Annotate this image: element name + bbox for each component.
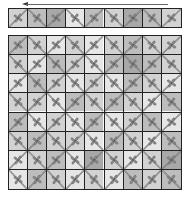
board-tile[interactable] (66, 74, 85, 93)
board-tile[interactable] (9, 151, 28, 170)
board-tile[interactable] (162, 55, 181, 74)
strip-tile[interactable] (143, 9, 162, 27)
board-tile[interactable] (28, 36, 47, 55)
strip-tile[interactable] (162, 9, 181, 27)
path-flower-icon (143, 151, 161, 169)
path-flower-icon (162, 74, 181, 92)
board-tile[interactable] (66, 93, 85, 112)
board-tile[interactable] (143, 36, 162, 55)
board-tile[interactable] (162, 151, 181, 170)
board-tile[interactable] (9, 170, 28, 189)
board-tile[interactable] (85, 74, 104, 93)
strip-tile[interactable] (28, 9, 47, 27)
path-flower-icon (85, 36, 103, 54)
path-flower-icon (28, 170, 46, 189)
strip-tile[interactable] (85, 9, 104, 27)
board-tile[interactable] (47, 74, 66, 93)
board-tile[interactable] (66, 113, 85, 132)
board-tile[interactable] (143, 74, 162, 93)
board-tile[interactable] (162, 170, 181, 189)
path-flower-icon (124, 9, 142, 27)
path-flower-icon (9, 36, 27, 54)
board-tile[interactable] (47, 36, 66, 55)
board-tile[interactable] (9, 113, 28, 132)
board-tile[interactable] (124, 93, 143, 112)
path-flower-icon (9, 113, 27, 131)
board-tile[interactable] (47, 170, 66, 189)
board-tile[interactable] (47, 113, 66, 132)
board-tile[interactable] (9, 55, 28, 74)
board-tile[interactable] (47, 93, 66, 112)
board-tile[interactable] (28, 132, 47, 151)
board-tile[interactable] (66, 170, 85, 189)
board-tile[interactable] (105, 93, 124, 112)
board-tile[interactable] (47, 151, 66, 170)
board-tile[interactable] (105, 113, 124, 132)
board-tile[interactable] (47, 55, 66, 74)
board-tile[interactable] (66, 151, 85, 170)
strip-tile[interactable] (124, 9, 143, 27)
board-tile[interactable] (66, 36, 85, 55)
path-flower-icon (105, 74, 123, 92)
board-tile[interactable] (85, 93, 104, 112)
strip-tile[interactable] (105, 9, 124, 27)
path-flower-icon (124, 93, 142, 111)
board-tile[interactable] (85, 132, 104, 151)
path-flower-icon (143, 132, 161, 150)
strip-tile[interactable] (9, 9, 28, 27)
path-flower-icon (143, 36, 161, 54)
board-tile[interactable] (124, 36, 143, 55)
board-tile[interactable] (85, 36, 104, 55)
board-tile[interactable] (143, 113, 162, 132)
board-tile[interactable] (162, 36, 181, 55)
board-tile[interactable] (105, 55, 124, 74)
strip-tile[interactable] (66, 9, 85, 27)
board-tile[interactable] (28, 74, 47, 93)
path-flower-icon (47, 113, 65, 131)
path-flower-icon (66, 74, 84, 92)
board-tile[interactable] (28, 113, 47, 132)
board-tile[interactable] (85, 170, 104, 189)
board-tile[interactable] (105, 36, 124, 55)
path-flower-icon (47, 74, 65, 92)
board-tile[interactable] (28, 151, 47, 170)
path-flower-icon (47, 93, 65, 111)
board-tile[interactable] (143, 55, 162, 74)
board-tile[interactable] (9, 132, 28, 151)
board-tile[interactable] (47, 132, 66, 151)
preview-tile-strip (8, 8, 182, 28)
board-tile[interactable] (124, 170, 143, 189)
path-flower-icon (162, 170, 181, 189)
board-tile[interactable] (162, 132, 181, 151)
board-tile[interactable] (143, 93, 162, 112)
path-flower-icon (9, 151, 27, 169)
board-tile[interactable] (105, 132, 124, 151)
board-tile[interactable] (162, 93, 181, 112)
board-tile[interactable] (9, 36, 28, 55)
board-tile[interactable] (143, 132, 162, 151)
board-tile[interactable] (143, 151, 162, 170)
board-tile[interactable] (162, 74, 181, 93)
board-tile[interactable] (66, 55, 85, 74)
board-tile[interactable] (105, 151, 124, 170)
board-tile[interactable] (28, 93, 47, 112)
board-tile[interactable] (66, 132, 85, 151)
board-tile[interactable] (9, 74, 28, 93)
board-tile[interactable] (85, 113, 104, 132)
board-tile[interactable] (85, 151, 104, 170)
board-tile[interactable] (124, 74, 143, 93)
board-tile[interactable] (105, 74, 124, 93)
board-tile[interactable] (124, 113, 143, 132)
board-tile[interactable] (162, 113, 181, 132)
board-tile[interactable] (124, 151, 143, 170)
board-tile[interactable] (143, 170, 162, 189)
board-tile[interactable] (28, 170, 47, 189)
board-tile[interactable] (124, 55, 143, 74)
path-flower-icon (105, 170, 123, 189)
board-tile[interactable] (9, 93, 28, 112)
strip-tile[interactable] (47, 9, 66, 27)
board-tile[interactable] (85, 55, 104, 74)
board-tile[interactable] (28, 55, 47, 74)
board-tile[interactable] (124, 132, 143, 151)
board-tile[interactable] (105, 170, 124, 189)
